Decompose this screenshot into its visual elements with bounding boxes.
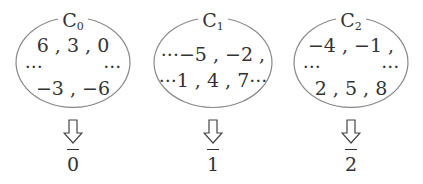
down-arrow-icon: [341, 119, 361, 145]
class-representative-2: 2: [281, 149, 421, 174]
class-row: 2 , 5 , 8: [281, 78, 421, 98]
class-label-c2: C2: [281, 10, 421, 37]
class-row: ···1 , 4 , 7···: [143, 70, 283, 90]
class-row-ellipsis: ··· ···: [3, 56, 143, 76]
class-representative-0: 0: [3, 149, 143, 174]
residue-class-c2: C2 −4 , −1 , ··· ··· 2 , 5 , 8 2: [281, 8, 421, 184]
class-row: 6 , 3 , 0: [3, 35, 143, 55]
class-representative-1: 1: [143, 149, 283, 174]
class-row: ···−5 , −2 ,: [143, 44, 283, 64]
class-row: −4 , −1 ,: [281, 35, 421, 55]
down-arrow-icon: [63, 119, 83, 145]
residue-class-c1: C1 ···−5 , −2 , ···1 , 4 , 7··· 1: [143, 8, 283, 184]
class-label-c1: C1: [143, 10, 283, 37]
down-arrow-icon: [203, 119, 223, 145]
class-label-c0: C0: [3, 10, 143, 37]
cropped-title-remnant: [0, 0, 423, 7]
residue-class-c0: C0 6 , 3 , 0 ··· ··· −3 , −6 0: [3, 8, 143, 184]
class-row-ellipsis: ··· ···: [281, 56, 421, 76]
class-row: −3 , −6: [3, 78, 143, 98]
